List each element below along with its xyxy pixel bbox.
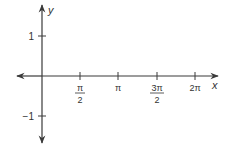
tick-label: 2π [189, 83, 200, 93]
y-tick-label: −1 [23, 111, 35, 122]
tick-numerator: 3π [151, 83, 162, 93]
x-tick-3pi-over-2: 3π 2 [150, 72, 164, 105]
coordinate-plane: y x 1 −1 π 2 π 3π 2 2π [0, 0, 231, 154]
y-tick-label: 1 [28, 31, 34, 42]
y-tick-1: 1 [28, 31, 46, 42]
x-axis-label: x [211, 79, 218, 91]
x-tick-2pi: 2π [189, 72, 200, 93]
y-axis-label: y [47, 4, 55, 16]
x-tick-pi: π [115, 72, 121, 93]
x-tick-pi-over-2: π 2 [75, 72, 85, 105]
tick-denominator: 2 [154, 95, 159, 105]
tick-denominator: 2 [77, 95, 82, 105]
tick-label: π [115, 83, 121, 93]
tick-numerator: π [77, 83, 83, 93]
